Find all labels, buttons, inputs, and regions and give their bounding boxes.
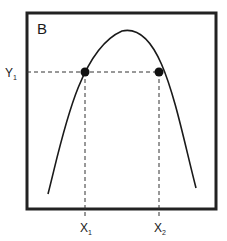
x1-label: X1 [80,221,92,236]
point-x1-y1 [81,68,90,77]
plot-frame [27,13,216,209]
point-x2-y1 [155,68,164,77]
x2-label: X2 [154,221,166,236]
y1-label: Y1 [5,66,17,81]
curve [48,30,196,194]
panel-label: B [37,20,47,37]
diagram: B Y1 X1 X2 [0,0,227,241]
